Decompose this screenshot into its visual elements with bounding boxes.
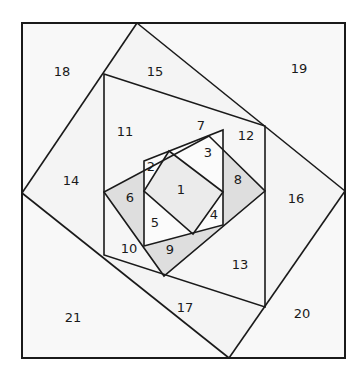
piece-label-9: 9	[166, 242, 174, 257]
piece-label-16: 16	[288, 191, 305, 206]
piece-label-1: 1	[177, 182, 185, 197]
piece-label-11: 11	[117, 124, 134, 139]
quilt-block-diagram: 1 2 3 4 5 6 7 8 9 10 11 12 13 14 15 16 1…	[0, 0, 364, 381]
piece-label-17: 17	[177, 300, 194, 315]
piece-label-2: 2	[147, 159, 155, 174]
piece-label-8: 8	[234, 172, 242, 187]
piece-label-4: 4	[210, 207, 218, 222]
piece-label-10: 10	[121, 241, 138, 256]
piece-label-5: 5	[151, 215, 159, 230]
piece-label-14: 14	[63, 173, 80, 188]
piece-label-20: 20	[294, 306, 311, 321]
piece-label-7: 7	[197, 118, 205, 133]
piece-label-18: 18	[54, 64, 71, 79]
piece-label-6: 6	[126, 190, 134, 205]
piece-label-12: 12	[238, 128, 255, 143]
piece-label-15: 15	[147, 64, 164, 79]
piece-label-19: 19	[291, 61, 308, 76]
piece-label-21: 21	[65, 310, 82, 325]
piece-label-13: 13	[232, 257, 249, 272]
piece-label-3: 3	[204, 145, 212, 160]
